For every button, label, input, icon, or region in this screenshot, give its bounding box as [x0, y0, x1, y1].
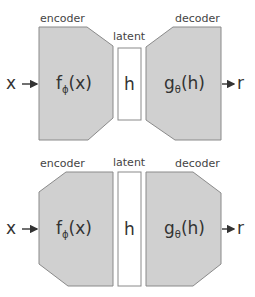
encoder-heading: encoder	[40, 12, 85, 25]
latent-symbol: h	[124, 74, 135, 94]
decoder-function: gθ(h)	[164, 73, 205, 95]
latent-heading: latent	[113, 30, 146, 43]
encoder-function: fϕ(x)	[56, 73, 92, 95]
decoder-function: gθ(h)	[164, 218, 205, 240]
decoder-heading: decoder	[175, 12, 220, 25]
encoder-heading: encoder	[40, 157, 85, 170]
output-label: r	[237, 218, 244, 238]
decoder-heading: decoder	[175, 157, 220, 170]
input-label: x	[6, 218, 16, 238]
diagram-overcomplete: encoder latent decoder x fϕ(x) h gθ(h) r	[6, 156, 244, 286]
autoencoder-diagram: encoder latent decoder x fϕ(x) h gθ(h) r…	[0, 0, 255, 297]
output-label: r	[237, 73, 244, 93]
diagram-undercomplete: encoder latent decoder x fϕ(x) h gθ(h) r	[6, 12, 244, 140]
input-label: x	[6, 73, 16, 93]
latent-heading: latent	[113, 156, 146, 169]
encoder-function: fϕ(x)	[56, 218, 92, 240]
latent-symbol: h	[124, 219, 135, 239]
